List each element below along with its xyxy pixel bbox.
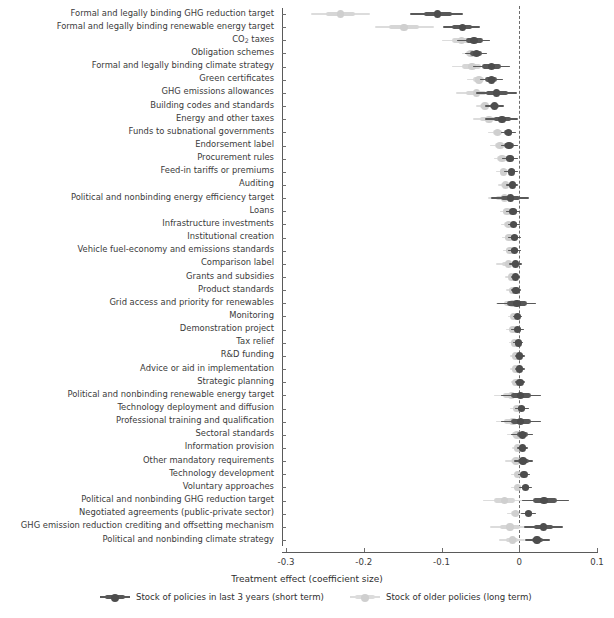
category-label: Tax relief bbox=[236, 337, 274, 346]
category-label: Green certificates bbox=[199, 74, 274, 83]
chart-legend: Stock of policies in last 3 years (short… bbox=[0, 590, 614, 610]
data-point-group bbox=[282, 257, 598, 270]
category-label: Comparison label bbox=[201, 258, 274, 267]
x-axis-tick-label: 0 bbox=[517, 557, 522, 567]
data-point-group bbox=[282, 86, 598, 99]
category-label: Grid access and priority for renewables bbox=[109, 298, 274, 307]
data-point-group bbox=[282, 336, 598, 349]
category-label: Demonstration project bbox=[180, 324, 274, 333]
data-point-group bbox=[282, 139, 598, 152]
category-label: Advice or aid in implementation bbox=[140, 364, 274, 373]
point-estimate-marker bbox=[473, 50, 480, 57]
data-point-group bbox=[282, 100, 598, 113]
category-label-column: Formal and legally binding GHG reduction… bbox=[0, 0, 274, 560]
data-point-group bbox=[282, 60, 598, 73]
legend-item-long-term[interactable]: Stock of older policies (long term) bbox=[350, 592, 532, 602]
x-axis-tick-label: 0.1 bbox=[590, 557, 604, 567]
category-label: Strategic planning bbox=[197, 377, 274, 386]
point-estimate-marker bbox=[513, 300, 520, 307]
point-estimate-marker bbox=[518, 405, 525, 412]
category-label: Obligation schemes bbox=[191, 48, 274, 57]
category-label: Professional training and qualification bbox=[116, 416, 274, 425]
point-estimate-marker bbox=[540, 523, 547, 530]
category-label: Infrastructure investments bbox=[162, 219, 274, 228]
data-point-group bbox=[282, 126, 598, 139]
data-point-group bbox=[282, 534, 598, 547]
category-label: Energy and other taxes bbox=[176, 114, 274, 123]
legend-label: Stock of older policies (long term) bbox=[386, 592, 532, 602]
legend-item-short-term[interactable]: Stock of policies in last 3 years (short… bbox=[100, 592, 324, 602]
point-estimate-marker bbox=[512, 273, 519, 280]
legend-marker-icon bbox=[350, 593, 380, 602]
point-estimate-marker bbox=[491, 102, 498, 109]
forest-plot-figure: Formal and legally binding GHG reduction… bbox=[0, 0, 614, 618]
point-estimate-marker bbox=[516, 352, 523, 359]
data-point-group bbox=[282, 415, 598, 428]
category-label: R&D funding bbox=[221, 350, 274, 359]
data-point-group bbox=[282, 520, 598, 533]
category-label: Feed-in tariffs or premiums bbox=[160, 166, 274, 175]
data-point-group bbox=[282, 178, 598, 191]
category-label: Information provision bbox=[185, 442, 274, 451]
point-estimate-marker bbox=[508, 168, 515, 175]
point-estimate-marker bbox=[507, 194, 514, 201]
point-estimate-marker bbox=[519, 444, 526, 451]
category-label: Political and nonbinding GHG reduction t… bbox=[81, 495, 274, 504]
category-label: Auditing bbox=[239, 179, 274, 188]
point-estimate-marker bbox=[515, 339, 522, 346]
data-point-group bbox=[282, 363, 598, 376]
category-label: Technology development bbox=[169, 469, 274, 478]
data-point-group bbox=[282, 310, 598, 323]
point-estimate-marker bbox=[470, 37, 477, 44]
data-point-group bbox=[282, 244, 598, 257]
x-axis-tick bbox=[286, 548, 287, 552]
point-estimate-marker bbox=[510, 221, 517, 228]
data-point-group bbox=[282, 455, 598, 468]
point-estimate-marker bbox=[511, 234, 518, 241]
point-estimate-marker bbox=[522, 484, 529, 491]
category-label: Formal and legally binding renewable ene… bbox=[57, 22, 274, 31]
data-point-group bbox=[282, 47, 598, 60]
point-estimate-marker bbox=[514, 326, 521, 333]
data-point-group bbox=[282, 323, 598, 336]
point-estimate-marker bbox=[509, 181, 516, 188]
data-point-group bbox=[282, 73, 598, 86]
point-estimate-marker bbox=[519, 457, 526, 464]
data-point-group bbox=[282, 21, 598, 34]
category-label: Formal and legally binding GHG reduction… bbox=[71, 9, 274, 18]
data-point-group bbox=[282, 468, 598, 481]
category-label: Vehicle fuel-economy and emissions stand… bbox=[77, 245, 274, 254]
category-label: Grants and subsidies bbox=[186, 272, 274, 281]
category-label: Endorsement label bbox=[195, 140, 274, 149]
category-label: Procurement rules bbox=[197, 153, 274, 162]
x-axis-tick-label: -0.3 bbox=[278, 557, 295, 567]
point-estimate-marker bbox=[525, 510, 532, 517]
category-label: Monitoring bbox=[229, 311, 274, 320]
category-label: Political and nonbinding climate strateg… bbox=[103, 535, 274, 544]
data-point-group bbox=[282, 218, 598, 231]
data-point-group bbox=[282, 402, 598, 415]
data-point-group bbox=[282, 284, 598, 297]
data-point-group bbox=[282, 34, 598, 47]
category-label: Loans bbox=[250, 206, 274, 215]
category-label: Funds to subnational governments bbox=[129, 127, 274, 136]
point-estimate-marker bbox=[514, 313, 521, 320]
legend-label: Stock of policies in last 3 years (short… bbox=[136, 592, 324, 602]
category-label: Building codes and standards bbox=[150, 101, 274, 110]
point-estimate-marker bbox=[512, 260, 519, 267]
category-label: Political and nonbinding energy efficien… bbox=[71, 193, 274, 202]
category-label: Formal and legally binding climate strat… bbox=[92, 61, 274, 70]
point-estimate-marker bbox=[459, 24, 466, 31]
x-axis-spine bbox=[282, 552, 598, 553]
data-point-group bbox=[282, 8, 598, 21]
point-estimate-marker bbox=[519, 431, 526, 438]
category-label: Technology deployment and diffusion bbox=[117, 403, 274, 412]
data-point-group bbox=[282, 297, 598, 310]
point-estimate-marker bbox=[493, 89, 500, 96]
point-estimate-marker bbox=[434, 10, 441, 17]
point-estimate-marker bbox=[517, 418, 524, 425]
data-point-group bbox=[282, 165, 598, 178]
category-label: GHG emission reduction crediting and off… bbox=[21, 521, 274, 530]
point-estimate-marker bbox=[509, 208, 516, 215]
point-estimate-marker bbox=[488, 76, 495, 83]
